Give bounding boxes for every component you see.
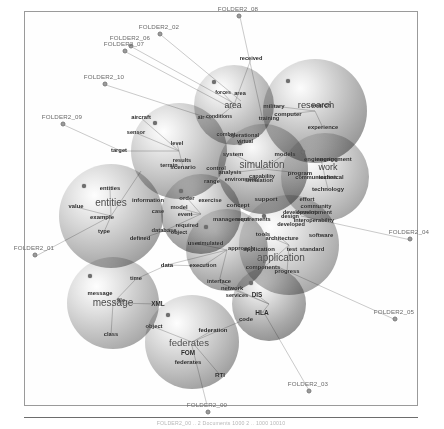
term-label[interactable]: simulated xyxy=(197,241,223,247)
folder-node-dot[interactable] xyxy=(33,253,38,258)
figure-caption: FOLDER2_00 .. 2 Documents 1000 2 .. 1000… xyxy=(24,420,418,426)
term-label[interactable]: simulation xyxy=(245,178,273,184)
term-label[interactable]: HLA xyxy=(255,310,269,317)
term-label[interactable]: services xyxy=(226,293,248,299)
term-label[interactable]: class xyxy=(104,332,119,338)
term-label[interactable]: type xyxy=(98,229,110,235)
folder-node-dot[interactable] xyxy=(206,410,211,415)
term-label[interactable]: models xyxy=(274,151,295,157)
term-label[interactable]: search xyxy=(311,102,331,108)
term-label[interactable]: network xyxy=(221,286,243,292)
folder-node-label[interactable]: FOLDER2_01 xyxy=(14,244,54,251)
folder-node-label[interactable]: FOLDER2_05 xyxy=(374,308,414,315)
term-label[interactable]: interface xyxy=(207,279,231,285)
term-label[interactable]: software xyxy=(309,232,334,238)
term-label[interactable]: received xyxy=(240,56,263,62)
term-label[interactable]: experience xyxy=(308,125,338,131)
term-label[interactable]: technical xyxy=(318,175,343,181)
folder-node-dot[interactable] xyxy=(123,49,128,54)
term-label[interactable]: object xyxy=(145,324,162,330)
plot-frame: receivedforcesareaareamilitaryresearchse… xyxy=(24,11,418,406)
term-label[interactable]: concept xyxy=(226,202,249,208)
term-label[interactable]: military xyxy=(263,103,284,109)
term-label[interactable]: federates xyxy=(169,338,209,348)
folder-node-dot[interactable] xyxy=(408,237,413,242)
term-label[interactable]: data xyxy=(161,262,173,268)
folder-node-label[interactable]: FOLDER2_02 xyxy=(139,23,179,30)
term-label[interactable]: value xyxy=(69,204,84,210)
term-label[interactable]: application xyxy=(257,253,305,263)
folder-node-label[interactable]: FOLDER2_09 xyxy=(42,113,82,120)
term-label[interactable]: defined xyxy=(130,236,151,242)
term-label[interactable]: progress xyxy=(275,269,300,275)
term-label[interactable]: level xyxy=(171,141,183,147)
term-label[interactable]: object xyxy=(171,230,187,236)
term-label[interactable]: sensor xyxy=(127,130,145,136)
term-label[interactable]: forces xyxy=(215,90,231,95)
folder-node-label[interactable]: FOLDER2_07 xyxy=(104,40,144,47)
term-label[interactable]: federates xyxy=(175,359,202,365)
term-label[interactable]: area xyxy=(234,91,246,97)
term-label[interactable]: model xyxy=(170,205,187,211)
term-label[interactable]: conditions xyxy=(206,114,232,119)
term-label[interactable]: effort xyxy=(300,197,315,203)
term-label[interactable]: air xyxy=(198,115,205,121)
word-label-layer: receivedforcesareaareamilitaryresearchse… xyxy=(24,11,418,406)
figure-container: receivedforcesareaareamilitaryresearchse… xyxy=(0,0,444,429)
term-label[interactable]: range xyxy=(204,179,220,185)
term-label[interactable]: required xyxy=(175,223,198,229)
folder-node-dot[interactable] xyxy=(103,82,108,87)
term-label[interactable]: event xyxy=(178,212,193,218)
term-label[interactable]: federation xyxy=(198,327,227,333)
term-label[interactable]: requirements xyxy=(235,217,270,223)
term-label[interactable]: support xyxy=(254,196,277,202)
folder-node-dot[interactable] xyxy=(158,32,163,37)
term-label[interactable]: entities xyxy=(100,186,120,192)
term-label[interactable]: simulation xyxy=(239,160,284,170)
term-label[interactable]: system xyxy=(223,151,244,157)
term-label[interactable]: example xyxy=(90,214,114,220)
term-label[interactable]: execution xyxy=(189,263,216,269)
term-label[interactable]: information xyxy=(132,198,164,204)
folder-node-label[interactable]: FOLDER2_00 xyxy=(187,401,227,408)
term-label[interactable]: case xyxy=(152,209,164,215)
folder-node-label[interactable]: FOLDER2_10 xyxy=(84,73,124,80)
term-label[interactable]: target xyxy=(111,148,127,154)
term-label[interactable]: XML xyxy=(151,301,165,307)
caption-rule xyxy=(24,417,418,418)
term-label[interactable]: virtual xyxy=(237,139,253,144)
term-label[interactable]: architecture xyxy=(265,236,298,242)
term-label[interactable]: message xyxy=(93,298,134,308)
term-label[interactable]: DIS xyxy=(252,292,263,298)
term-label[interactable]: entities xyxy=(95,198,127,208)
term-label[interactable]: scenario xyxy=(170,164,195,170)
term-label[interactable]: exercise xyxy=(198,198,221,204)
folder-node-dot[interactable] xyxy=(307,389,312,394)
folder-node-label[interactable]: FOLDER2_04 xyxy=(389,228,429,235)
term-label[interactable]: code xyxy=(239,316,253,322)
term-label[interactable]: FOM xyxy=(181,350,195,356)
term-label[interactable]: developed xyxy=(277,222,305,228)
folder-node-label[interactable]: FOLDER2_03 xyxy=(288,380,328,387)
folder-node-label[interactable]: FOLDER2_08 xyxy=(218,5,258,12)
folder-node-dot[interactable] xyxy=(393,317,398,322)
term-label[interactable]: order xyxy=(179,195,194,201)
folder-node-dot[interactable] xyxy=(61,122,66,127)
term-label[interactable]: training xyxy=(259,116,280,122)
term-label[interactable]: area xyxy=(224,101,241,110)
term-label[interactable]: analysis xyxy=(219,170,242,176)
term-label[interactable]: technology xyxy=(312,186,344,192)
term-label[interactable]: aircraft xyxy=(131,115,151,121)
term-label[interactable]: RTI xyxy=(215,372,225,378)
folder-node-dot[interactable] xyxy=(237,14,242,19)
term-label[interactable]: work xyxy=(318,163,337,172)
term-label[interactable]: time xyxy=(130,276,142,282)
